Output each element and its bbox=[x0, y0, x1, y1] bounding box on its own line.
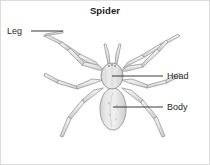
leg-left-4 bbox=[60, 88, 103, 137]
spider-illustration bbox=[0, 0, 210, 165]
leg-right-4 bbox=[122, 88, 165, 137]
leg-right-1 bbox=[123, 34, 180, 68]
label-head: Head bbox=[167, 71, 189, 82]
pedipalp-left bbox=[104, 44, 110, 64]
leg-left-3 bbox=[44, 73, 102, 89]
label-body: Body bbox=[167, 102, 188, 113]
leg-left-1 bbox=[44, 31, 101, 68]
spider-abdomen bbox=[100, 88, 126, 130]
pedipalp-right bbox=[115, 44, 121, 64]
spider-diagram-figure: Spider Leg Head Body bbox=[0, 0, 210, 165]
label-leg: Leg bbox=[7, 26, 22, 37]
figure-title: Spider bbox=[0, 5, 210, 16]
